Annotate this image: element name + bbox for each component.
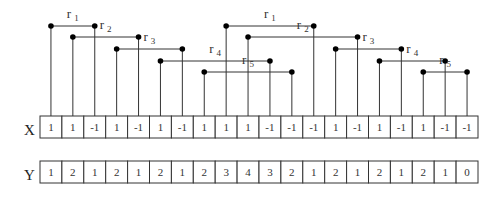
cell-value: -1 xyxy=(287,121,296,133)
connector-r4: r4 xyxy=(158,41,273,116)
cell-value: 1 xyxy=(92,166,98,178)
cell-value: 2 xyxy=(421,166,427,178)
connector-label: r4 xyxy=(209,41,221,58)
endpoint-dot xyxy=(158,58,164,64)
row-label: X xyxy=(24,122,35,138)
cell-value: 1 xyxy=(355,166,361,178)
cell-value: 1 xyxy=(377,121,383,133)
row-label: Y xyxy=(24,167,35,183)
cell-value: 1 xyxy=(442,166,448,178)
cell-value: 1 xyxy=(311,166,317,178)
cell-value: -1 xyxy=(90,121,99,133)
row-y: Y12121212343212121210 xyxy=(24,161,478,183)
endpoint-dot xyxy=(289,69,295,75)
cell-value: -1 xyxy=(397,121,406,133)
cell-value: -1 xyxy=(178,121,187,133)
endpoint-dot xyxy=(92,23,98,29)
cell-value: 2 xyxy=(114,166,120,178)
cell-value: 1 xyxy=(333,121,339,133)
connector-label: r1 xyxy=(67,6,79,23)
connector-label: r4 xyxy=(406,41,418,58)
endpoint-dot xyxy=(377,58,383,64)
sequence-rows: X11-11-11-1111-1-1-11-11-11-1-1Y12121212… xyxy=(24,116,478,183)
cell-value: 1 xyxy=(421,121,427,133)
connector-label: r1 xyxy=(264,6,276,23)
connector-r3: r3 xyxy=(114,29,185,116)
cell-value: -1 xyxy=(462,121,471,133)
cell-value: -1 xyxy=(441,121,450,133)
endpoint-dot xyxy=(223,23,229,29)
cell-value: 2 xyxy=(70,166,76,178)
endpoint-dot xyxy=(114,46,120,52)
endpoint-dot xyxy=(180,46,186,52)
cell-value: 1 xyxy=(245,121,251,133)
cell-value: 3 xyxy=(267,166,273,178)
cell-value: 2 xyxy=(377,166,383,178)
endpoint-dot xyxy=(70,34,76,40)
connector-r3: r3 xyxy=(333,29,404,116)
cell-value: 1 xyxy=(180,166,186,178)
cell-value: 1 xyxy=(136,166,142,178)
cell-value: 1 xyxy=(158,121,164,133)
cell-value: -1 xyxy=(353,121,362,133)
row-x: X11-11-11-1111-1-1-11-11-11-1-1 xyxy=(24,116,478,138)
connector-group: r1r2r3r4r5r1r2r3r4r5 xyxy=(48,6,470,116)
cell-value: 3 xyxy=(223,166,229,178)
endpoint-dot xyxy=(201,69,207,75)
endpoint-dot xyxy=(136,34,142,40)
endpoint-dot xyxy=(267,58,273,64)
cell-value: 4 xyxy=(245,166,251,178)
endpoint-dot xyxy=(245,34,251,40)
cell-value: 1 xyxy=(48,166,54,178)
endpoint-dot xyxy=(48,23,54,29)
interval-diagram: r1r2r3r4r5r1r2r3r4r5 X11-11-11-1111-1-1-… xyxy=(0,0,499,197)
endpoint-dot xyxy=(355,34,361,40)
cell-value: 2 xyxy=(289,166,295,178)
connector-label: r2 xyxy=(100,17,112,34)
cell-value: -1 xyxy=(265,121,274,133)
endpoint-dot xyxy=(311,23,317,29)
cell-value: 1 xyxy=(223,121,229,133)
cell-value: 2 xyxy=(158,166,164,178)
endpoint-dot xyxy=(464,69,470,75)
connector-r4: r4 xyxy=(377,41,448,116)
endpoint-dot xyxy=(333,46,339,52)
endpoint-dot xyxy=(420,69,426,75)
cell-value: -1 xyxy=(309,121,318,133)
connector-r2: r2 xyxy=(245,17,360,116)
cell-value: 1 xyxy=(202,121,208,133)
cell-value: 1 xyxy=(114,121,120,133)
cell-value: 1 xyxy=(70,121,76,133)
endpoint-dot xyxy=(399,46,405,52)
connector-label: r3 xyxy=(144,29,156,46)
connector-r2: r2 xyxy=(70,17,141,116)
cell-value: 0 xyxy=(464,166,470,178)
cell-value: 1 xyxy=(48,121,54,133)
connector-label: r3 xyxy=(363,29,375,46)
cell-value: 2 xyxy=(333,166,339,178)
cell-value: -1 xyxy=(134,121,143,133)
cell-value: 1 xyxy=(399,166,405,178)
cell-value: 2 xyxy=(202,166,208,178)
